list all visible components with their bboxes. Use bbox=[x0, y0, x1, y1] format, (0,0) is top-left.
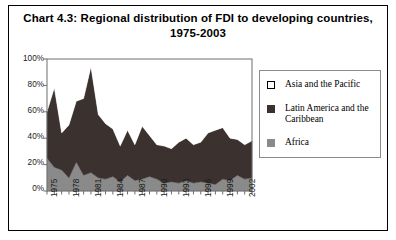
chart-legend: Asia and the Pacific Latin America and t… bbox=[259, 70, 381, 158]
legend-label: Latin America and the Caribbean bbox=[285, 103, 379, 124]
x-tick-label: 1987 bbox=[138, 179, 147, 197]
x-tick-label: 1996 bbox=[204, 179, 213, 197]
legend-swatch-icon bbox=[267, 105, 275, 113]
legend-item-asia-and-the-pacific[interactable]: Asia and the Pacific bbox=[267, 79, 360, 90]
x-tick-label: 1990 bbox=[160, 179, 169, 197]
x-tick-label: 1984 bbox=[116, 179, 125, 197]
x-tick-label: 1975 bbox=[50, 179, 59, 197]
x-tick-label: 1978 bbox=[72, 179, 81, 197]
chart-figure: Chart 4.3: Regional distribution of FDI … bbox=[0, 0, 396, 240]
x-tick-label: 2002 bbox=[248, 179, 257, 197]
x-tick-label: 1999 bbox=[226, 179, 235, 197]
legend-label: Asia and the Pacific bbox=[285, 79, 360, 90]
x-tick-label: 1981 bbox=[94, 179, 103, 197]
legend-swatch-icon bbox=[267, 139, 275, 147]
x-tick-label: 1993 bbox=[182, 179, 191, 197]
legend-item-africa[interactable]: Africa bbox=[267, 137, 309, 148]
legend-item-latin-america-and-the-caribbean[interactable]: Latin America and the Caribbean bbox=[267, 103, 379, 124]
legend-swatch-icon bbox=[267, 81, 275, 89]
area-series-group bbox=[47, 59, 252, 191]
legend-label: Africa bbox=[285, 137, 309, 148]
